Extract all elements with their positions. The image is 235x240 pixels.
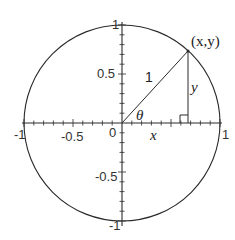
adjacent-label: x [149,127,157,143]
point-label: (x,y) [191,33,220,50]
x-tick-label-0: 0 [109,125,116,140]
x-tick-label-neg1: -1 [14,127,26,142]
y-tick-label-0-5: 0.5 [97,66,115,81]
unit-circle-diagram: -1 -0.5 0 1 1 0.5 -0.5 -1 (x,y) 1 θ x y [0,0,235,240]
opposite-label: y [189,79,198,95]
radius-line [122,51,188,123]
y-tick-label-neg0-5: -0.5 [95,169,117,184]
x-tick-label-neg0-5: -0.5 [61,129,83,144]
hypotenuse-label: 1 [145,69,153,85]
angle-label: θ [136,107,144,123]
y-tick-label-neg1: -1 [109,218,121,233]
x-tick-label-1: 1 [222,127,229,142]
point-marker [187,50,190,53]
y-tick-label-1: 1 [112,17,119,32]
